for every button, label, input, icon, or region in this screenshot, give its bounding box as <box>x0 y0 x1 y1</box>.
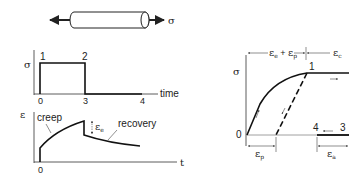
stress-strain-plot: σ 0 1 4 3 εe + εp εc εp εa <box>233 47 349 161</box>
x-axis-label: time <box>160 88 179 99</box>
y-axis-label: σ <box>233 66 240 77</box>
top-dim-right-label: εc <box>333 47 342 59</box>
top-dim-left-label: εe + εp <box>269 47 297 60</box>
x-axis-label: t <box>180 157 184 168</box>
creep-label: creep <box>37 112 62 123</box>
specimen-diagram: σ <box>50 12 175 28</box>
origin-label: 0 <box>236 129 242 140</box>
recovery-label: recovery <box>118 118 156 129</box>
bottom-dim-right-label: εa <box>327 148 336 160</box>
unloading-direction-arrow-icon <box>282 108 285 114</box>
point-label-4: 4 <box>313 122 319 133</box>
cylinder-end-face <box>141 12 149 28</box>
point-label-2: 2 <box>82 51 88 62</box>
stress-time-plot: σ 1 2 time 0 3 4 <box>24 50 179 106</box>
x-tick-0: 0 <box>38 96 43 106</box>
y-axis-label: ε <box>20 109 25 120</box>
bottom-dim-left-label: εp <box>255 148 264 161</box>
point-label-1: 1 <box>309 61 315 72</box>
strain-time-plot: ε t 0 creep recovery εe <box>20 109 184 175</box>
creep-pointer <box>46 124 51 133</box>
loading-curve <box>247 73 349 135</box>
cylinder-body <box>70 12 149 28</box>
y-axis-label: σ <box>24 59 31 70</box>
x-tick-0: 0 <box>38 165 43 175</box>
elastic-strain-label: εe <box>95 121 104 133</box>
point-label-1: 1 <box>40 51 46 62</box>
x-tick-3: 3 <box>83 96 88 106</box>
recovery-pointer <box>108 130 117 140</box>
x-tick-4: 4 <box>140 96 145 106</box>
stress-step-curve <box>40 63 142 94</box>
point-label-3: 3 <box>340 122 346 133</box>
specimen-stress-label: σ <box>168 15 175 26</box>
